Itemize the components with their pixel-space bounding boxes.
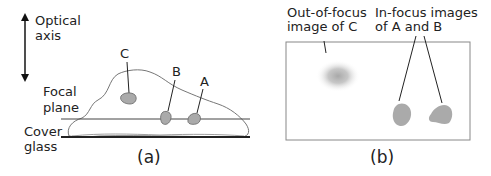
focal-plane-label-2: plane xyxy=(43,100,79,115)
optical-axis-arrow-icon xyxy=(21,13,29,82)
cell-outline xyxy=(68,70,248,137)
panel-b-caption: (b) xyxy=(370,147,394,167)
cover-glass-label-1: Cover xyxy=(24,124,63,139)
blurred-image-c xyxy=(316,60,360,92)
cover-glass-label-2: glass xyxy=(24,139,58,154)
out-of-focus-label-2: image of C xyxy=(287,19,357,34)
object-c-label: C xyxy=(120,46,129,61)
object-a-blob xyxy=(188,113,201,124)
panel-b: Out-of-focus image of C In-focus images … xyxy=(286,5,478,167)
in-focus-label-1: In-focus images xyxy=(375,5,478,20)
optical-axis-label-2: axis xyxy=(35,28,61,43)
microscopy-diagram: Optical axis Focal plane Cover glass C B… xyxy=(0,0,491,176)
panel-a: Optical axis Focal plane Cover glass C B… xyxy=(21,13,250,167)
object-a-label: A xyxy=(200,74,209,89)
object-b-blob xyxy=(161,111,172,124)
panel-a-caption: (a) xyxy=(137,147,161,167)
image-frame xyxy=(286,42,470,140)
optical-axis-label-1: Optical xyxy=(35,13,81,28)
object-c-blob xyxy=(121,93,137,104)
object-b-label: B xyxy=(172,64,181,79)
in-focus-label-2: of A and B xyxy=(375,19,442,34)
out-of-focus-label-1: Out-of-focus xyxy=(287,5,367,20)
focal-plane-label-1: Focal xyxy=(43,84,77,99)
